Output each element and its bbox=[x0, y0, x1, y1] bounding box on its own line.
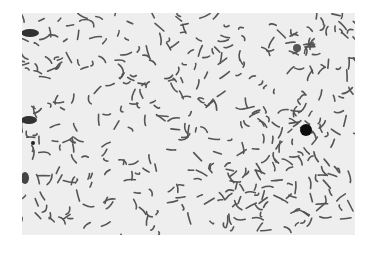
bacterium-rod bbox=[272, 136, 273, 143]
bacterium-rod bbox=[52, 141, 58, 142]
bacterium-rod bbox=[171, 129, 180, 130]
bacterium-rod bbox=[274, 89, 275, 93]
bacterium-rod bbox=[272, 180, 283, 181]
bacterium-rod bbox=[316, 204, 328, 205]
bacterium-rod bbox=[195, 128, 196, 132]
bacterium-rod bbox=[98, 114, 99, 125]
bacterium-rod bbox=[348, 58, 349, 69]
bacterium-rod bbox=[132, 172, 133, 180]
bacteria-micrograph bbox=[22, 13, 355, 235]
micrograph-drawing bbox=[22, 13, 355, 235]
bacterium-rod bbox=[335, 26, 336, 31]
bacterium-rod bbox=[292, 139, 293, 144]
bacterium-rod bbox=[180, 32, 185, 33]
bacterium-rod bbox=[325, 196, 326, 203]
bacterium-rod bbox=[167, 149, 176, 150]
bacterium-rod bbox=[123, 160, 124, 165]
bacterium-rod bbox=[328, 59, 329, 68]
bacterium-rod bbox=[157, 116, 168, 117]
bacterium-rod bbox=[316, 13, 317, 19]
bacterium-rod bbox=[218, 200, 223, 201]
bacterium-rod bbox=[134, 193, 140, 194]
bacterium-rod bbox=[59, 145, 60, 150]
bacterium-rod bbox=[178, 185, 183, 186]
